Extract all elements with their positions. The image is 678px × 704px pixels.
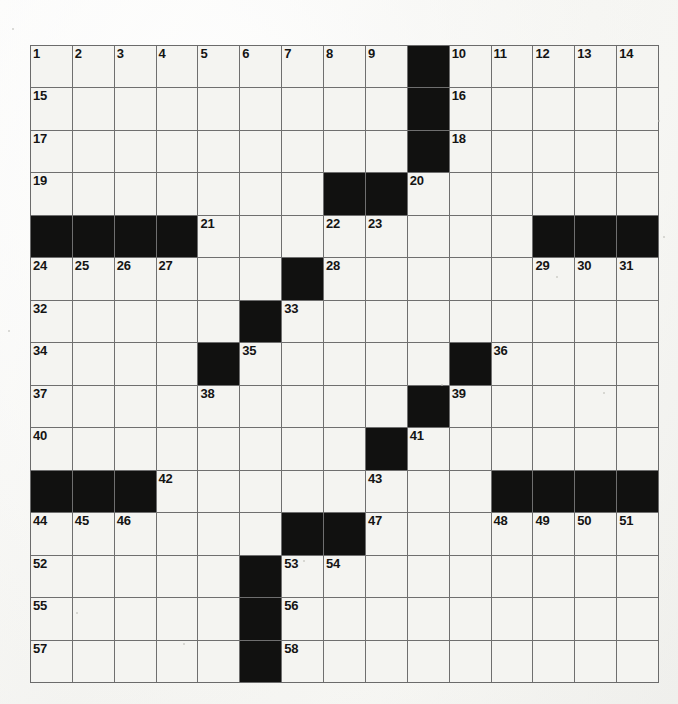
crossword-cell[interactable] (73, 343, 114, 384)
crossword-cell[interactable]: 52 (31, 556, 72, 597)
crossword-cell[interactable]: 40 (31, 428, 72, 469)
crossword-cell[interactable]: 41 (408, 428, 449, 469)
crossword-cell[interactable] (533, 428, 574, 469)
crossword-cell[interactable]: 11 (492, 46, 533, 87)
crossword-cell[interactable] (115, 598, 156, 639)
crossword-cell[interactable]: 13 (575, 46, 616, 87)
crossword-cell[interactable] (366, 641, 407, 682)
crossword-cell[interactable] (115, 301, 156, 342)
crossword-cell[interactable] (617, 598, 658, 639)
crossword-cell[interactable] (324, 131, 365, 172)
crossword-cell[interactable] (492, 216, 533, 257)
crossword-cell[interactable] (366, 131, 407, 172)
crossword-cell[interactable]: 57 (31, 641, 72, 682)
crossword-cell[interactable] (575, 343, 616, 384)
crossword-cell[interactable] (366, 598, 407, 639)
crossword-cell[interactable]: 37 (31, 386, 72, 427)
crossword-cell[interactable] (408, 598, 449, 639)
crossword-cell[interactable] (492, 88, 533, 129)
crossword-cell[interactable]: 19 (31, 173, 72, 214)
crossword-cell[interactable]: 22 (324, 216, 365, 257)
crossword-cell[interactable] (240, 216, 281, 257)
crossword-cell[interactable] (240, 513, 281, 554)
crossword-cell[interactable] (408, 641, 449, 682)
crossword-cell[interactable] (324, 386, 365, 427)
crossword-cell[interactable] (366, 386, 407, 427)
crossword-cell[interactable] (450, 258, 491, 299)
crossword-cell[interactable] (282, 131, 323, 172)
crossword-cell[interactable] (492, 131, 533, 172)
crossword-cell[interactable] (533, 301, 574, 342)
crossword-cell[interactable]: 16 (450, 88, 491, 129)
crossword-cell[interactable] (575, 598, 616, 639)
crossword-cell[interactable]: 47 (366, 513, 407, 554)
crossword-cell[interactable] (157, 301, 198, 342)
crossword-cell[interactable] (533, 598, 574, 639)
crossword-cell[interactable] (73, 301, 114, 342)
crossword-cell[interactable] (115, 343, 156, 384)
crossword-cell[interactable] (450, 641, 491, 682)
crossword-cell[interactable] (157, 513, 198, 554)
crossword-cell[interactable] (575, 88, 616, 129)
crossword-cell[interactable] (115, 88, 156, 129)
crossword-cell[interactable] (408, 343, 449, 384)
crossword-cell[interactable]: 20 (408, 173, 449, 214)
crossword-cell[interactable] (408, 258, 449, 299)
crossword-cell[interactable] (240, 428, 281, 469)
crossword-cell[interactable] (157, 343, 198, 384)
crossword-cell[interactable] (115, 428, 156, 469)
crossword-cell[interactable] (73, 641, 114, 682)
crossword-cell[interactable]: 25 (73, 258, 114, 299)
crossword-cell[interactable]: 35 (240, 343, 281, 384)
crossword-cell[interactable] (450, 301, 491, 342)
crossword-cell[interactable] (198, 428, 239, 469)
crossword-cell[interactable] (366, 88, 407, 129)
crossword-cell[interactable]: 2 (73, 46, 114, 87)
crossword-cell[interactable] (617, 556, 658, 597)
crossword-cell[interactable] (408, 513, 449, 554)
crossword-cell[interactable]: 55 (31, 598, 72, 639)
crossword-cell[interactable] (492, 258, 533, 299)
crossword-cell[interactable] (282, 428, 323, 469)
crossword-cell[interactable]: 10 (450, 46, 491, 87)
crossword-cell[interactable] (450, 173, 491, 214)
crossword-cell[interactable]: 27 (157, 258, 198, 299)
crossword-cell[interactable] (450, 513, 491, 554)
crossword-cell[interactable] (617, 428, 658, 469)
crossword-cell[interactable] (450, 428, 491, 469)
crossword-cell[interactable]: 29 (533, 258, 574, 299)
crossword-cell[interactable] (73, 88, 114, 129)
crossword-grid[interactable]: 1234567891011121314151617181920212223242… (30, 45, 659, 683)
crossword-cell[interactable] (492, 556, 533, 597)
crossword-cell[interactable] (575, 641, 616, 682)
crossword-cell[interactable] (73, 131, 114, 172)
crossword-cell[interactable] (115, 131, 156, 172)
crossword-cell[interactable] (450, 471, 491, 512)
crossword-cell[interactable] (198, 471, 239, 512)
crossword-cell[interactable] (450, 556, 491, 597)
crossword-cell[interactable] (617, 641, 658, 682)
crossword-cell[interactable] (617, 386, 658, 427)
crossword-cell[interactable] (198, 88, 239, 129)
crossword-cell[interactable] (575, 131, 616, 172)
crossword-cell[interactable] (408, 216, 449, 257)
crossword-cell[interactable] (282, 173, 323, 214)
crossword-cell[interactable]: 28 (324, 258, 365, 299)
crossword-cell[interactable] (533, 386, 574, 427)
crossword-cell[interactable]: 12 (533, 46, 574, 87)
crossword-cell[interactable]: 42 (157, 471, 198, 512)
crossword-cell[interactable] (240, 471, 281, 512)
crossword-cell[interactable] (533, 641, 574, 682)
crossword-cell[interactable]: 30 (575, 258, 616, 299)
crossword-cell[interactable] (617, 88, 658, 129)
crossword-cell[interactable]: 48 (492, 513, 533, 554)
crossword-cell[interactable] (492, 428, 533, 469)
crossword-cell[interactable] (533, 173, 574, 214)
crossword-cell[interactable] (324, 301, 365, 342)
crossword-cell[interactable]: 39 (450, 386, 491, 427)
crossword-cell[interactable] (198, 556, 239, 597)
crossword-cell[interactable]: 15 (31, 88, 72, 129)
crossword-cell[interactable] (366, 258, 407, 299)
crossword-cell[interactable]: 26 (115, 258, 156, 299)
crossword-cell[interactable] (324, 343, 365, 384)
